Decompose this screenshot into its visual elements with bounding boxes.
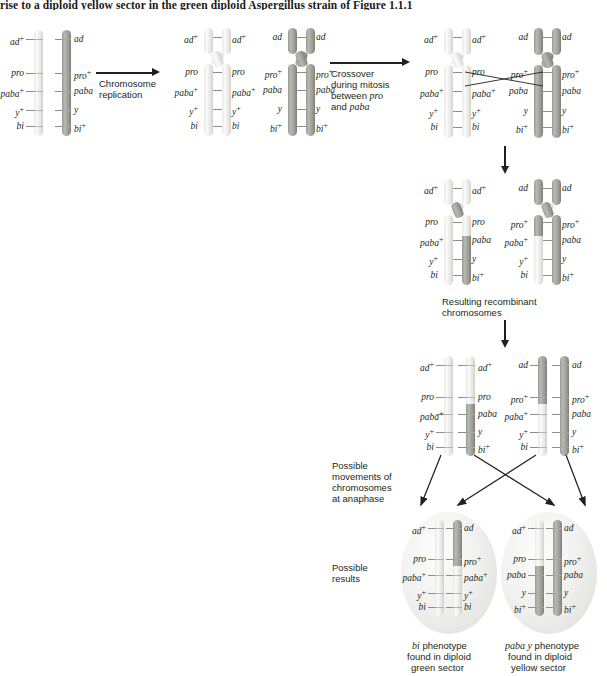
chromosome-band [34,91,43,92]
label-crossover-line4: and paba [331,101,370,112]
chromosome-band [535,593,544,594]
tick-mid-1 [55,73,62,74]
stage1-left-allele-2: paba+ [0,86,24,99]
long-arm-segment-upper [534,215,543,236]
resultL-tick-l-2 [428,575,435,576]
label-crossover-line3: between pro [331,90,383,101]
stage-result-right: ad+propabaybi+adpro+pabaybi+ [501,512,597,634]
chromosome-band [435,575,444,576]
separated-chromatid-A-left [444,356,453,456]
resultL-left-allele-3: y+ [401,588,426,601]
caption-right-phenotype-word: phenotype [532,640,579,651]
stage2-B-left-allele-3: y [160,104,282,114]
caption-right-phenotype: paba y phenotype [505,640,579,651]
resultR-right-allele-0: ad [564,523,574,533]
long-arm-segment [306,64,315,136]
arrow-a-to-left-oval [421,455,441,505]
resultL-tick-r-3 [446,593,453,594]
stage4-B-right-allele-2: paba [562,235,581,245]
stage4-B-left-allele-0: ad [420,183,528,193]
resultL-left-allele-1: pro [401,554,426,564]
resultR-left-allele-0: ad+ [501,523,526,536]
tick-mid-0 [55,39,62,40]
chromosome-band [560,414,569,415]
chromosome-band [553,593,562,594]
stage2-B-tick-3 [297,109,306,110]
caption-right-gene: paba y [505,640,532,651]
stage1-right-allele-2: paba [74,86,93,96]
chromatid-segment-lower [535,566,544,616]
crossover-strands [420,26,607,146]
tick-left-4 [26,126,34,127]
resultL-right-allele-2: paba+ [464,570,488,583]
resultR-right-allele-3: y [564,588,568,598]
chromosome-band [553,559,562,560]
resultL-left-allele-4: bi [401,602,426,612]
stage1-left-allele-0: ad+ [0,34,24,47]
resultL-tick-l-3 [428,593,435,594]
resultR-tick-l-0 [528,528,535,529]
label-anaphase-line3: chromosomes [332,482,392,493]
resultL-tick-r-1 [446,559,453,560]
chromatid-segment [34,30,43,136]
stage-separated-chromosomes: ad+propaba+y+biad+propabaybi+adpro+paba+… [420,352,607,462]
resultL-left-allele-0: ad+ [401,523,426,536]
chromosome-band [453,559,462,560]
label-results-line2: results [332,573,360,584]
resultL-right-allele-4: bi [464,602,471,612]
chromosome-band [538,365,547,366]
resultL-tick-l-4 [428,607,435,608]
resultL-tick-l-1 [428,559,435,560]
tick-mid-3 [55,110,62,111]
long-arm-segment-lower [534,236,543,285]
short-arm-left [534,179,543,205]
arrow-to-anaphase [504,320,506,342]
label-anaphase-line2: movements of [332,471,392,482]
chromatid-segment-lower [538,404,547,456]
long-arm-left [534,215,543,285]
stage5-B-tick-l-4 [530,447,538,448]
chromosome-band [535,559,544,560]
arrow-b-to-right-oval [566,455,585,505]
resultL-tick-r-4 [446,607,453,608]
stage5-B-right-allele-1: pro+ [572,392,589,405]
resultL-right-allele-1: pro+ [464,554,481,567]
caption-left-phenotype: bi phenotype [412,640,467,651]
caption-left-gene: bi [412,640,420,651]
stage4-B-right-allele-4: bi+ [562,270,574,283]
replicated-pair-dark [288,28,315,136]
resultR-tick-l-4 [528,607,535,608]
stage5-B-tick-r-4 [552,447,560,448]
parental-chromosome-light [34,30,43,136]
stage5-B-right-allele-2: paba [572,409,591,419]
separated-chromatid-B-right [560,356,569,456]
resultR-tick-l-1 [528,559,535,560]
arrow-b-to-left-oval [458,455,536,505]
chromosome-band [435,607,444,608]
resultR-right-allele-1: pro+ [564,554,581,567]
tick-left-1 [26,73,34,74]
resultL-right-allele-3: y+ [464,588,473,601]
tick-mid-4 [55,126,62,127]
stage1-right-allele-0: ad [74,34,84,44]
resultR-right-allele-2: paba [564,570,583,580]
stage-crossover-chromosomes: ad+propaba+y+biad+propaba+y+biadpro+paba… [420,26,607,144]
result-left-chromosome-1 [435,520,444,616]
resultL-tick-r-2 [446,575,453,576]
caption-right-line2: found in diploid [508,651,572,662]
chromosome-band [453,607,462,608]
label-results-line1: Possible [332,562,368,573]
resultR-tick-r-1 [546,559,553,560]
resultR-tick-r-2 [546,575,553,576]
resultR-right-allele-4: bi+ [564,602,576,615]
stage1-left-allele-1: pro [0,68,24,78]
tick-left-2 [26,91,34,92]
stage2-B-tick-4 [297,126,306,127]
stage4-B-left-allele-1: pro+ [420,217,528,230]
stage5-B-tick-r-1 [552,397,560,398]
stage1-left-allele-4: bi [0,121,24,131]
long-arm-segment [288,64,297,136]
stage2-B-right-allele-3: y [316,104,320,114]
chromosome-band [62,39,71,40]
chromosome-band [453,593,462,594]
